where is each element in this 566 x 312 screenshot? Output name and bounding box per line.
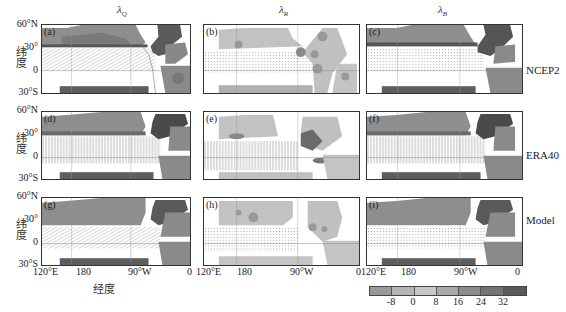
panel-label: (e) [206,113,217,124]
lat-tick-60n: 60°N [0,190,38,201]
map-panel-i: (i) [366,197,523,266]
lon-tick-120e: 120°E [361,266,386,277]
map-panel-h: (h) [203,197,360,266]
lat-tick-30s: 30°S [0,172,38,183]
lon-tick-120e: 120°E [196,266,221,277]
panel-label: (d) [44,113,56,124]
panel-label: (a) [44,26,55,37]
colorbar-tick: 0 [411,296,416,307]
colorbar-swatch [437,287,459,295]
colorbar-swatch [370,287,392,295]
map-panel-f: (f) [366,111,523,180]
lon-tick-90w: 90°W [454,266,477,277]
map-panel-d: (d) [41,111,191,180]
row-label-era40: ERA40 [526,149,559,161]
lon-tick-180: 180 [76,266,91,277]
map-panel-g: (g) [41,197,191,266]
row-label-ncep2: NCEP2 [526,64,560,76]
panel-label: (f) [369,113,379,124]
panel-label: (b) [206,26,218,37]
y-axis-label: 纬度 [13,132,29,154]
lon-tick-180: 180 [401,266,416,277]
y-axis-label: 纬度 [13,218,29,240]
colorbar-tick: 8 [434,296,439,307]
map-panel-e: (e) [203,111,360,180]
colorbar-swatch [392,287,414,295]
colorbar-swatch [481,287,503,295]
lon-tick-180: 180 [237,266,252,277]
x-axis-label: 经度 [93,280,115,296]
map-panel-c: (c) [366,24,523,94]
row-label-model: Model [526,214,555,226]
lat-tick-60n: 60°N [0,104,38,115]
colorbar-tick: 16 [453,296,463,307]
column-title-lambda-b: λB [438,3,447,18]
lat-tick-60n: 60°N [0,18,38,29]
column-title-lambda-q: λQ [117,3,127,18]
colorbar-tick: 32 [498,296,508,307]
map-panel-b: (b) [203,24,360,94]
colorbar-swatch [415,287,437,295]
panel-label: (g) [44,199,56,210]
lat-tick-30s: 30°S [0,86,38,97]
colorbar-swatch [504,287,526,295]
map-panel-a: (a) [41,24,191,94]
colorbar-tick: 24 [476,296,486,307]
lon-tick-120e: 120°E [33,266,58,277]
colorbar-swatch [459,287,481,295]
column-title-lambda-r: λR [279,3,288,18]
lon-tick-0: 0 [187,266,192,277]
colorbar-tick: -8 [387,296,395,307]
panel-label: (h) [206,199,218,210]
colorbar [369,286,527,296]
y-axis-label: 纬度 [13,46,29,68]
panel-label: (c) [369,26,380,37]
lon-tick-90w: 90°W [128,266,151,277]
panel-label: (i) [369,199,378,210]
lon-tick-90w: 90°W [290,266,313,277]
lon-tick-0: 0 [515,266,520,277]
